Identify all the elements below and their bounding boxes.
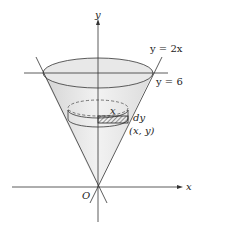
x-axis-arrow [177, 185, 183, 189]
hatched-strip [98, 116, 128, 123]
cone-volume-diagram: y x O y = 2x y = 6 x dy (x, y) [0, 0, 229, 229]
thickness-label: dy [133, 113, 145, 123]
point-label: (x, y) [129, 126, 154, 136]
radius-label: x [110, 106, 116, 116]
x-axis-label: x [186, 182, 192, 192]
y-axis-label: y [95, 10, 101, 20]
curve-label-y-eq-2x: y = 2x [150, 44, 182, 54]
origin-label: O [82, 191, 90, 201]
curve-label-y-eq-6: y = 6 [156, 77, 183, 87]
